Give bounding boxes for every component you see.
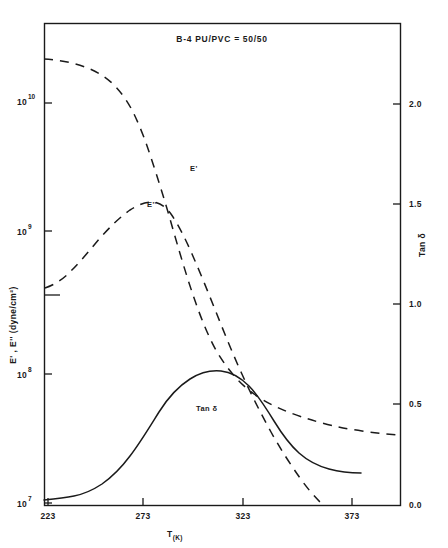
left-tick-label-1e9-exp: 9: [28, 223, 32, 230]
right-axis-title: Tan δ: [417, 233, 427, 257]
curve-label-e-double-prime: E'': [147, 200, 157, 209]
x-tick-labels: 223 273 323 373: [40, 511, 359, 521]
figure-container: B-4 PU/PVC = 50/50 10 10 10 9: [0, 0, 448, 548]
x-axis-title: T(K): [167, 529, 183, 542]
x-axis-ticks: [48, 498, 352, 506]
x-tick-label-373: 373: [344, 511, 359, 521]
curve-label-tan-delta: Tan δ: [196, 404, 217, 413]
right-tick-label-0-0: 0.0: [409, 500, 422, 510]
curve-tan-delta: [44, 371, 361, 500]
left-tick-label-1e10-base: 10: [17, 97, 27, 107]
right-tick-label-1-5: 1.5: [409, 199, 422, 209]
curve-e-double-prime: [45, 202, 320, 502]
left-tick-label-1e7-exp: 7: [28, 495, 32, 502]
left-tick-label-1e9-base: 10: [17, 227, 27, 237]
right-axis-ticks: [393, 104, 401, 404]
left-tick-label-1e8-exp: 8: [28, 366, 32, 373]
left-tick-label-1e10-exp: 10: [28, 93, 36, 100]
x-tick-label-273: 273: [135, 511, 150, 521]
left-tick-labels: 10 10 10 9 10 8 10 7: [17, 93, 36, 509]
chart-title: B-4 PU/PVC = 50/50: [176, 34, 267, 44]
chart-svg: B-4 PU/PVC = 50/50 10 10 10 9: [0, 0, 448, 548]
x-tick-label-223: 223: [40, 511, 55, 521]
left-axis-ticks: [45, 103, 61, 503]
right-tick-label-1-0: 1.0: [409, 299, 422, 309]
curve-e-prime: [44, 59, 398, 435]
left-tick-label-1e7-base: 10: [17, 499, 27, 509]
right-tick-label-2-0: 2.0: [409, 99, 422, 109]
right-tick-labels: 2.0 1.5 1.0 0.5 0.0: [409, 99, 422, 510]
curve-label-e-prime: E': [190, 164, 198, 173]
left-tick-label-1e8-base: 10: [17, 370, 27, 380]
x-tick-label-323: 323: [235, 511, 250, 521]
left-axis-title: E' , E'' (dyne/cm²): [8, 286, 18, 363]
right-tick-label-0-5: 0.5: [409, 399, 422, 409]
plot-frame: [45, 24, 401, 506]
